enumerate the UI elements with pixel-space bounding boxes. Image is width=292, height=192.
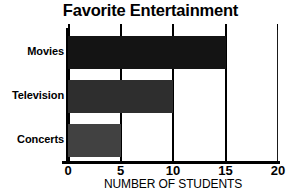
category-label-movies: Movies <box>27 45 64 57</box>
category-label-concerts: Concerts <box>17 133 64 145</box>
x-tick-mark-15 <box>225 24 227 30</box>
bar <box>68 80 173 113</box>
x-tick-label-15: 15 <box>209 163 243 178</box>
category-label-television: Television <box>12 89 64 101</box>
bar-chart: Favorite Entertainment MoviesTelevisionC… <box>0 0 292 192</box>
x-axis-title: NUMBER OF STUDENTS <box>68 177 278 191</box>
gridline-20 <box>277 30 278 162</box>
x-tick-label-0: 0 <box>51 163 85 178</box>
x-tick-mark-10 <box>172 24 174 30</box>
x-tick-label-20: 20 <box>261 163 292 178</box>
x-tick-label-10: 10 <box>156 163 190 178</box>
bar <box>68 36 226 69</box>
plot-area <box>68 30 278 162</box>
bar <box>68 124 121 157</box>
x-tick-mark-0 <box>68 24 70 30</box>
x-tick-mark-20 <box>277 24 278 30</box>
chart-title: Favorite Entertainment <box>48 1 253 20</box>
x-tick-label-5: 5 <box>104 163 138 178</box>
x-tick-mark-5 <box>120 24 122 30</box>
